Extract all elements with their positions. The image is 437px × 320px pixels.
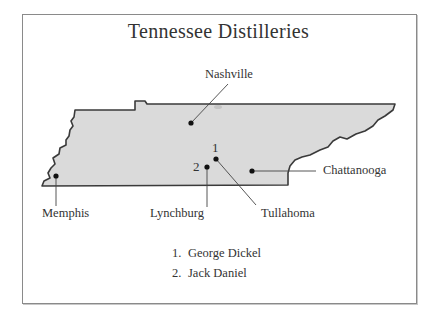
tullahoma-dot (213, 156, 218, 161)
lynchburg-dot (204, 164, 209, 169)
legend-item-2: 2.Jack Daniel (172, 266, 247, 281)
legend-number: 2. (172, 266, 188, 281)
nashville-dot (188, 120, 193, 125)
marker-number-2: 2 (193, 159, 200, 175)
city-label-memphis: Memphis (42, 206, 89, 221)
legend-label: Jack Daniel (188, 266, 247, 280)
city-label-nashville: Nashville (205, 67, 253, 82)
city-label-tullahoma: Tullahoma (261, 206, 315, 221)
city-label-lynchburg: Lynchburg (150, 206, 204, 221)
legend-label: George Dickel (188, 246, 261, 260)
city-label-chattanooga: Chattanooga (323, 163, 386, 178)
legend-item-1: 1.George Dickel (172, 246, 261, 261)
legend-number: 1. (172, 246, 188, 261)
chattanooga-dot (249, 168, 254, 173)
marker-number-1: 1 (212, 140, 219, 156)
map-smudge (214, 105, 222, 109)
memphis-dot (53, 173, 58, 178)
